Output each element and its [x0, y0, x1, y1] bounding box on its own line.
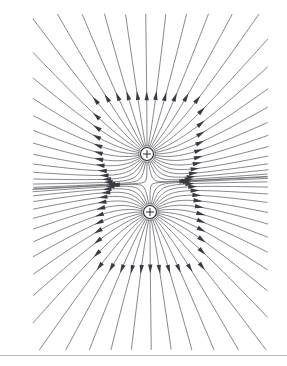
- field-arrowhead: [197, 235, 206, 242]
- field-arrowhead: [95, 212, 104, 217]
- field-arrowhead: [140, 265, 144, 274]
- field-line: [154, 39, 268, 150]
- field-arrowhead: [196, 121, 204, 128]
- field-line: [131, 220, 148, 350]
- field-line: [33, 143, 139, 161]
- field-arrowhead: [120, 264, 126, 273]
- field-line: [153, 182, 267, 205]
- field-arrowhead: [127, 91, 132, 100]
- field-arrowhead: [186, 263, 193, 272]
- field-line: [151, 161, 268, 178]
- footer-divider: [0, 355, 287, 356]
- field-arrowhead: [109, 263, 115, 272]
- field-arrowhead: [192, 193, 201, 197]
- field-arrowhead: [145, 91, 149, 100]
- field-arrowhead: [189, 171, 198, 175]
- field-arrowhead: [98, 169, 107, 173]
- field-line: [154, 67, 267, 151]
- field-arrowhead: [136, 91, 140, 100]
- field-line: [153, 156, 268, 170]
- field-arrowhead: [94, 158, 103, 162]
- field-arrowhead: [190, 167, 199, 171]
- field-line: [126, 15, 146, 147]
- field-arrowhead: [94, 227, 103, 234]
- upper-positive-charge: [138, 145, 155, 162]
- field-line: [154, 147, 268, 165]
- field-arrowhead: [162, 92, 166, 101]
- field-line: [148, 14, 165, 146]
- field-arrowhead: [95, 219, 104, 225]
- field-line: [156, 195, 267, 207]
- field-arrowhead: [96, 205, 105, 209]
- field-line: [155, 191, 268, 207]
- field-arrowhead: [153, 91, 157, 100]
- field-line: [40, 217, 145, 350]
- field-arrowheads-layer: [92, 91, 205, 274]
- field-line: [157, 205, 268, 224]
- field-arrowhead: [194, 156, 203, 160]
- field-arrowhead: [97, 199, 106, 203]
- electric-field-svg: [0, 0, 287, 366]
- field-arrowhead: [104, 94, 111, 103]
- field-line: [33, 161, 144, 184]
- field-arrowhead: [191, 188, 200, 192]
- field-arrowhead: [182, 93, 188, 102]
- field-arrowhead: [195, 141, 204, 147]
- field-arrowhead: [166, 264, 171, 273]
- field-arrowhead: [92, 135, 101, 141]
- field-arrowhead: [175, 264, 181, 273]
- field-line: [34, 215, 143, 296]
- field-arrowhead: [100, 173, 109, 177]
- field-lines-layer: [33, 14, 268, 350]
- field-line: [146, 14, 147, 146]
- field-line: [82, 14, 143, 147]
- field-arrowhead: [196, 218, 205, 223]
- field-arrowhead: [194, 149, 203, 154]
- field-arrowhead: [93, 125, 102, 132]
- field-arrowhead: [193, 96, 200, 105]
- field-arrowhead: [196, 131, 205, 138]
- field-arrowhead: [94, 237, 102, 244]
- field-arrowhead: [171, 93, 177, 102]
- field-line: [153, 14, 259, 149]
- field-line: [156, 217, 266, 350]
- field-arrowhead: [93, 144, 102, 149]
- lower-positive-charge: [141, 203, 158, 220]
- field-line: [151, 220, 171, 349]
- field-arrowhead: [102, 177, 111, 181]
- field-line: [151, 14, 209, 147]
- field-line: [33, 216, 143, 323]
- field-diagram-figure: Field lines radiate outward from two lik…: [0, 0, 287, 366]
- field-line: [33, 19, 141, 149]
- field-arrowhead: [148, 265, 152, 274]
- field-arrowhead: [197, 226, 206, 232]
- field-line: [89, 219, 146, 350]
- field-arrowhead: [116, 92, 122, 101]
- field-line: [152, 14, 232, 148]
- field-arrowhead: [98, 194, 107, 198]
- field-line: [155, 218, 238, 350]
- field-arrowhead: [188, 185, 197, 189]
- field-line: [33, 186, 147, 205]
- field-arrowhead: [96, 164, 105, 168]
- field-arrowhead: [97, 262, 104, 271]
- field-line: [66, 218, 145, 350]
- field-arrowhead: [193, 198, 202, 202]
- field-line: [33, 196, 144, 209]
- field-line: [33, 53, 140, 150]
- field-line: [157, 200, 268, 212]
- field-arrowhead: [196, 211, 205, 216]
- field-arrowhead: [192, 162, 201, 166]
- field-arrowhead: [195, 204, 204, 208]
- field-line: [154, 219, 214, 350]
- field-arrowhead: [94, 151, 103, 156]
- field-line: [150, 220, 151, 350]
- field-arrowhead: [131, 265, 135, 274]
- field-line: [33, 189, 146, 206]
- field-arrowhead: [101, 190, 110, 194]
- field-line: [33, 159, 141, 171]
- field-arrowhead: [157, 265, 161, 274]
